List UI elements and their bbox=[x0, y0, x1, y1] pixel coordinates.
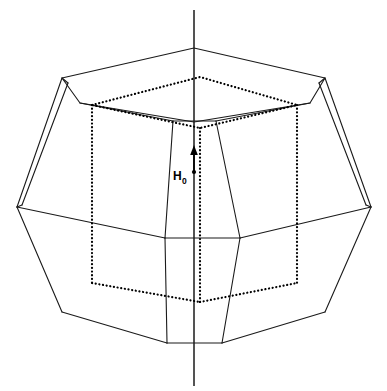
polyhedron-figure: H 0 bbox=[0, 0, 387, 391]
field-origin-dot bbox=[192, 170, 196, 174]
diagram-canvas: H 0 bbox=[0, 0, 387, 391]
field-label-H: H bbox=[173, 169, 182, 183]
field-label-subscript: 0 bbox=[182, 176, 187, 186]
